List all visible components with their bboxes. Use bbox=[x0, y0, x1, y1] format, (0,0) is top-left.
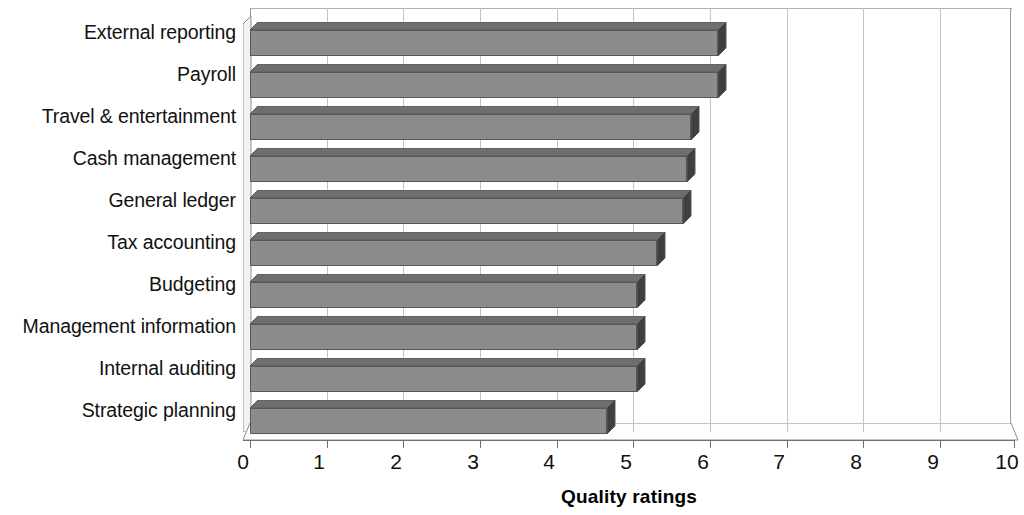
bar-strategic-planning bbox=[250, 400, 615, 434]
bar-internal-auditing bbox=[250, 358, 645, 392]
category-axis-labels: External reporting Payroll Travel & ente… bbox=[0, 0, 240, 440]
x-tick-10 bbox=[1014, 440, 1015, 448]
bar-front-face bbox=[250, 156, 687, 182]
bar-general-ledger bbox=[250, 190, 691, 224]
bar-front-face bbox=[250, 408, 607, 434]
category-label-strategic-planning: Strategic planning bbox=[0, 399, 236, 421]
bar-side-face bbox=[607, 400, 616, 434]
x-tick-label-6: 6 bbox=[678, 450, 728, 474]
x-tick-label-1: 1 bbox=[294, 450, 344, 474]
bar-top-face bbox=[250, 232, 665, 240]
x-tick-7 bbox=[787, 440, 788, 448]
bar-side-face bbox=[657, 232, 666, 266]
bar-side-face bbox=[691, 106, 700, 140]
bar-side-face bbox=[637, 316, 646, 350]
bar-management-information bbox=[250, 316, 645, 350]
category-label-payroll: Payroll bbox=[0, 63, 236, 85]
bar-front-face bbox=[250, 114, 691, 140]
x-tick-1 bbox=[327, 440, 328, 448]
bar-top-face bbox=[250, 358, 645, 366]
bar-front-face bbox=[250, 30, 718, 56]
bar-front-face bbox=[250, 198, 683, 224]
bar-external-reporting bbox=[250, 22, 726, 56]
x-tick-label-8: 8 bbox=[831, 450, 881, 474]
x-tick-8 bbox=[863, 440, 864, 448]
bar-side-face bbox=[718, 22, 727, 56]
bar-side-face bbox=[637, 274, 646, 308]
x-tick-9 bbox=[940, 440, 941, 448]
x-tick-label-4: 4 bbox=[524, 450, 574, 474]
bar-tax-accounting bbox=[250, 232, 665, 266]
bar-side-face bbox=[718, 64, 727, 98]
bar-cash-management bbox=[250, 148, 695, 182]
bar-series-quality-ratings bbox=[243, 8, 1018, 444]
x-tick-label-3: 3 bbox=[448, 450, 498, 474]
plot-area bbox=[243, 8, 1018, 444]
bar-top-face bbox=[250, 274, 645, 282]
category-label-general-ledger: General ledger bbox=[0, 189, 236, 211]
x-tick-3 bbox=[480, 440, 481, 448]
category-label-travel-entertainment: Travel & entertainment bbox=[0, 105, 236, 127]
bar-top-face bbox=[250, 106, 699, 114]
x-tick-4 bbox=[557, 440, 558, 448]
x-tick-6 bbox=[710, 440, 711, 448]
category-label-budgeting: Budgeting bbox=[0, 273, 236, 295]
bar-top-face bbox=[250, 190, 691, 198]
bar-travel-entertainment bbox=[250, 106, 699, 140]
bar-front-face bbox=[250, 366, 637, 392]
bar-side-face bbox=[687, 148, 696, 182]
bar-front-face bbox=[250, 324, 637, 350]
category-label-external-reporting: External reporting bbox=[0, 21, 236, 43]
category-label-management-information: Management information bbox=[0, 315, 236, 337]
x-tick-label-5: 5 bbox=[601, 450, 651, 474]
bar-front-face bbox=[250, 240, 657, 266]
category-label-tax-accounting: Tax accounting bbox=[0, 231, 236, 253]
x-tick-2 bbox=[403, 440, 404, 448]
x-tick-label-10: 10 bbox=[982, 450, 1024, 474]
x-tick-0 bbox=[250, 440, 251, 448]
bar-front-face bbox=[250, 282, 637, 308]
category-label-internal-auditing: Internal auditing bbox=[0, 357, 236, 379]
bar-top-face bbox=[250, 148, 695, 156]
category-label-cash-management: Cash management bbox=[0, 147, 236, 169]
quality-ratings-bar-chart: External reporting Payroll Travel & ente… bbox=[0, 0, 1024, 515]
bar-side-face bbox=[637, 358, 646, 392]
bar-top-face bbox=[250, 64, 726, 72]
bar-top-face bbox=[250, 22, 726, 30]
bar-budgeting bbox=[250, 274, 645, 308]
x-tick-label-7: 7 bbox=[754, 450, 804, 474]
x-tick-5 bbox=[633, 440, 634, 448]
x-tick-label-2: 2 bbox=[371, 450, 421, 474]
x-tick-label-0: 0 bbox=[218, 450, 268, 474]
x-axis-line bbox=[243, 440, 1015, 441]
bar-payroll bbox=[250, 64, 726, 98]
bar-front-face bbox=[250, 72, 718, 98]
x-axis-title: Quality ratings bbox=[243, 486, 1015, 508]
x-tick-label-9: 9 bbox=[908, 450, 958, 474]
bar-side-face bbox=[683, 190, 692, 224]
bar-top-face bbox=[250, 316, 645, 324]
bar-top-face bbox=[250, 400, 615, 408]
